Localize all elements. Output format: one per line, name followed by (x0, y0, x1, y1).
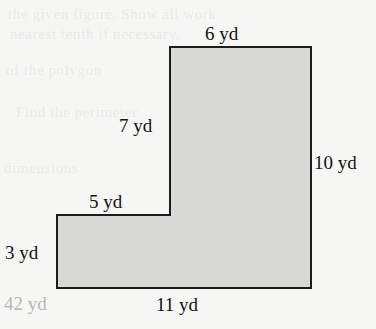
dimension-label-right: 10 yd (314, 153, 357, 172)
dimension-label-inner-vertical: 7 yd (119, 116, 152, 135)
dimension-label-top: 6 yd (205, 24, 238, 43)
dimension-label-bottom: 11 yd (156, 295, 198, 314)
perimeter-answer-label: 42 yd (4, 294, 47, 313)
geometry-figure: the given figure. Show all work nearest … (0, 0, 376, 329)
dimension-label-left-vertical: 3 yd (5, 243, 38, 262)
dimension-label-notch-horizontal: 5 yd (89, 192, 122, 211)
polygon-outline (57, 47, 311, 288)
